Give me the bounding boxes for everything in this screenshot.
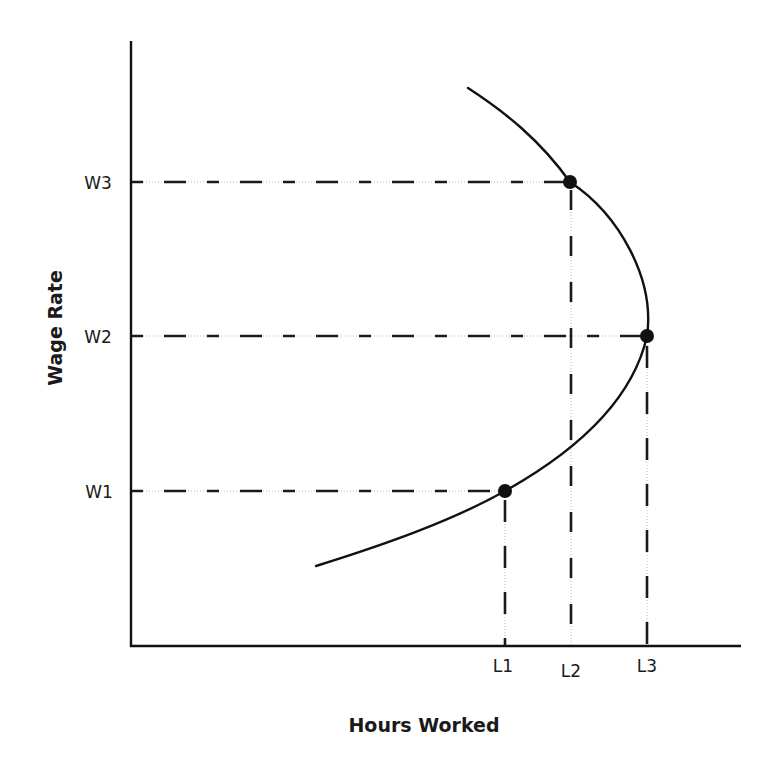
labor-supply-curve bbox=[316, 88, 648, 566]
y-tick-w1: W1 bbox=[85, 482, 113, 502]
x-tick-l2: L2 bbox=[561, 661, 581, 681]
guide-dashes bbox=[131, 182, 647, 646]
y-tick-w3: W3 bbox=[84, 173, 112, 193]
axes bbox=[130, 41, 741, 647]
point-w3-l2 bbox=[563, 175, 577, 189]
y-tick-w2: W2 bbox=[84, 327, 112, 347]
x-tick-l3: L3 bbox=[637, 656, 657, 676]
labor-supply-diagram: W3 W2 W1 L1 L2 L3 Hours Worked Wage Rate bbox=[0, 0, 779, 771]
y-axis-title: Wage Rate bbox=[44, 270, 66, 386]
point-w2-l3 bbox=[640, 329, 654, 343]
x-tick-l1: L1 bbox=[493, 656, 513, 676]
x-axis-title: Hours Worked bbox=[348, 714, 499, 736]
point-w1-l1 bbox=[498, 484, 512, 498]
guide-underlays bbox=[131, 182, 647, 646]
